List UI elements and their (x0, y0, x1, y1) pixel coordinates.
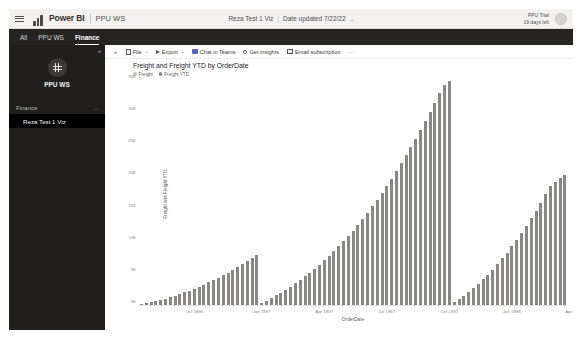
bar-freight-ytd[interactable] (246, 261, 249, 305)
bar-freight-ytd[interactable] (371, 206, 374, 305)
chart-bars[interactable] (139, 81, 567, 305)
bar-freight-ytd[interactable] (308, 273, 311, 305)
bar-freight-ytd[interactable] (159, 300, 162, 305)
bar-freight-ytd[interactable] (544, 194, 547, 305)
bar-freight-ytd[interactable] (496, 264, 499, 305)
bar-freight-ytd[interactable] (405, 155, 408, 305)
bar-freight-ytd[interactable] (515, 240, 518, 305)
user-avatar[interactable] (555, 13, 567, 25)
sidebar-collapse-icon[interactable]: « (98, 48, 101, 54)
bar-freight-ytd[interactable] (332, 251, 335, 305)
bar-freight-ytd[interactable] (433, 103, 436, 305)
bar-freight-ytd[interactable] (241, 264, 244, 305)
bar-freight-ytd[interactable] (467, 292, 470, 305)
bar-freight-ytd[interactable] (299, 280, 302, 305)
bar-freight-ytd[interactable] (183, 292, 186, 305)
bar-freight-ytd[interactable] (328, 256, 331, 305)
bar-freight-ytd[interactable] (150, 302, 153, 305)
chevron-down-icon[interactable]: ⌄ (94, 105, 98, 111)
hamburger-menu-icon[interactable] (15, 13, 26, 24)
toolbar-email-subscription-button[interactable]: Email subscription (287, 49, 340, 55)
bar-freight-ytd[interactable] (217, 278, 220, 305)
bar-freight-ytd[interactable] (414, 139, 417, 305)
bar-column[interactable] (563, 81, 568, 305)
bar-freight-ytd[interactable] (390, 179, 393, 305)
bar-freight-ytd[interactable] (438, 93, 441, 305)
bar-freight-ytd[interactable] (458, 299, 461, 305)
toolbar-chat-in-teams-button[interactable]: Chat in Teams (192, 49, 236, 55)
bar-freight-ytd[interactable] (236, 267, 239, 305)
bar-freight-ytd[interactable] (419, 130, 422, 305)
bar-freight-ytd[interactable] (563, 175, 566, 305)
bar-freight-ytd[interactable] (289, 287, 292, 305)
tab-finance[interactable]: Finance (75, 34, 100, 46)
bar-freight-ytd[interactable] (212, 280, 215, 305)
bar-freight-ytd[interactable] (337, 246, 340, 305)
bar-freight-ytd[interactable] (169, 297, 172, 305)
bar-freight-ytd[interactable] (227, 273, 230, 305)
bar-freight-ytd[interactable] (376, 200, 379, 305)
bar-freight-ytd[interactable] (304, 276, 307, 305)
tab-all[interactable]: All (20, 34, 27, 46)
bar-freight-ytd[interactable] (409, 147, 412, 305)
bar-freight-ytd[interactable] (342, 241, 345, 305)
bar-freight-ytd[interactable] (284, 290, 287, 305)
bar-freight-ytd[interactable] (366, 213, 369, 305)
bar-freight-ytd[interactable] (486, 275, 489, 305)
bar-freight-ytd[interactable] (145, 303, 148, 305)
bar-freight-ytd[interactable] (472, 288, 475, 305)
sidebar-section-finance[interactable]: Finance ⌄ (9, 102, 105, 114)
trial-status[interactable]: PPU Trial 19 days left (523, 12, 549, 25)
bar-freight-ytd[interactable] (198, 287, 201, 305)
toolbar-export-button[interactable]: Export ⌄ (156, 49, 184, 55)
bar-freight-ytd[interactable] (482, 279, 485, 305)
header-report-name[interactable]: Reza Test 1 Viz (228, 15, 273, 22)
legend-item-freight-ytd[interactable]: Freight YTD (159, 72, 189, 77)
bar-freight-ytd[interactable] (188, 291, 191, 305)
bar-freight-ytd[interactable] (265, 301, 268, 305)
bar-freight-ytd[interactable] (193, 289, 196, 305)
bar-freight-ytd[interactable] (385, 186, 388, 305)
sidebar-workspace-header[interactable]: PPU WS (9, 58, 105, 88)
bar-freight-ytd[interactable] (251, 258, 254, 305)
bar-freight-ytd[interactable] (462, 296, 465, 305)
bar-freight-ytd[interactable] (381, 193, 384, 305)
bar-freight-ytd[interactable] (207, 282, 210, 305)
bar-freight-ytd[interactable] (174, 296, 177, 305)
bar-freight-ytd[interactable] (279, 293, 282, 305)
bar-freight-ytd[interactable] (275, 295, 278, 305)
header-workspace-name[interactable]: PPU WS (96, 14, 126, 23)
bar-freight-ytd[interactable] (510, 246, 513, 305)
bar-freight-ytd[interactable] (477, 284, 480, 305)
bar-freight-ytd[interactable] (395, 171, 398, 305)
bar-freight-ytd[interactable] (448, 81, 451, 305)
bar-freight-ytd[interactable] (154, 301, 157, 305)
bar-freight-ytd[interactable] (231, 270, 234, 305)
bar-freight-ytd[interactable] (356, 225, 359, 305)
bar-freight-ytd[interactable] (178, 294, 181, 305)
bar-freight-ytd[interactable] (443, 85, 446, 305)
bar-freight-ytd[interactable] (255, 255, 258, 305)
bar-freight-ytd[interactable] (429, 112, 432, 305)
bar-freight-ytd[interactable] (506, 253, 509, 305)
bar-freight-ytd[interactable] (554, 182, 557, 305)
bar-freight-ytd[interactable] (453, 302, 456, 305)
bar-freight-ytd[interactable] (559, 178, 562, 305)
bar-freight-ytd[interactable] (318, 265, 321, 305)
sidebar-item-reza-test-1-viz[interactable]: Reza Test 1 Viz (9, 114, 105, 128)
bar-freight-ytd[interactable] (535, 211, 538, 305)
bar-freight-ytd[interactable] (400, 163, 403, 305)
bar-freight-ytd[interactable] (260, 303, 263, 305)
toolbar-get-insights-button[interactable]: Get insights (243, 49, 279, 55)
toolbar-collapse-icon[interactable]: « (114, 49, 118, 55)
bar-freight-ytd[interactable] (294, 283, 297, 305)
bar-freight-ytd[interactable] (164, 299, 167, 305)
bar-freight-ytd[interactable] (140, 304, 143, 305)
bar-freight-ytd[interactable] (323, 260, 326, 305)
bar-freight-ytd[interactable] (222, 275, 225, 305)
bar-freight-ytd[interactable] (520, 233, 523, 305)
bar-freight-ytd[interactable] (270, 298, 273, 305)
bar-freight-ytd[interactable] (352, 231, 355, 305)
bar-freight-ytd[interactable] (501, 258, 504, 305)
bar-freight-ytd[interactable] (530, 218, 533, 305)
